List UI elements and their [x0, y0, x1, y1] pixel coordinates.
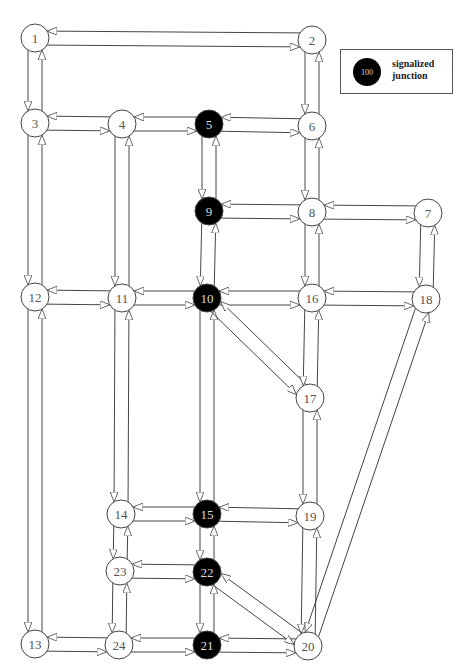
junction-node-4: 4 [108, 110, 136, 138]
legend-text: signalized junction [392, 58, 434, 82]
link-arrow [200, 223, 201, 285]
junction-node-8: 8 [298, 198, 326, 226]
link-arrow [433, 226, 434, 287]
link-arrow [221, 218, 299, 219]
link-arrow [222, 574, 303, 633]
junction-label: 9 [206, 204, 213, 219]
link-arrow [419, 225, 420, 286]
junction-label: 12 [29, 290, 42, 305]
link-arrow [222, 204, 300, 205]
link-arrow [127, 527, 128, 559]
junction-nodes: 123456789101112131415161718192021222324 [21, 24, 442, 660]
junction-node-2: 2 [298, 26, 326, 54]
junction-label: 18 [420, 292, 433, 307]
junction-label: 1 [32, 31, 39, 46]
junction-node-17: 17 [296, 384, 324, 412]
junction-node-21: 21 [193, 631, 221, 659]
link-arrow [325, 205, 416, 206]
junction-label: 6 [309, 119, 316, 134]
road-network-diagram: 123456789101112131415161718192021222324 [0, 0, 464, 672]
junction-node-10: 10 [193, 284, 221, 312]
junction-node-14: 14 [107, 500, 135, 528]
junction-node-16: 16 [298, 284, 326, 312]
junction-label: 14 [115, 507, 129, 522]
link-arrow [48, 637, 107, 638]
link-arrow [324, 219, 415, 220]
link-arrow [132, 578, 194, 579]
junction-node-6: 6 [298, 112, 326, 140]
junction-node-1: 1 [21, 24, 49, 52]
link-arrow [317, 311, 319, 386]
link-arrow [114, 310, 115, 501]
legend-line-1: signalized [392, 58, 434, 70]
link-arrow [113, 526, 114, 558]
junction-label: 8 [309, 205, 316, 220]
directed-links [28, 31, 435, 653]
junction-node-12: 12 [21, 283, 49, 311]
junction-label: 23 [114, 564, 127, 579]
link-arrow [306, 308, 416, 631]
junction-label: 7 [425, 206, 432, 221]
link-arrow [48, 290, 110, 291]
junction-label: 5 [206, 117, 213, 132]
junction-label: 4 [119, 117, 126, 132]
link-arrow [324, 305, 413, 306]
link-arrow [48, 116, 110, 117]
link-arrow [48, 31, 300, 33]
link-arrow [126, 584, 127, 633]
junction-node-9: 9 [195, 197, 223, 225]
link-arrow [219, 652, 295, 653]
junction-label: 16 [306, 291, 320, 306]
link-arrow [128, 311, 129, 502]
link-arrow [47, 651, 106, 652]
junction-label: 19 [304, 509, 317, 524]
link-arrow [301, 528, 303, 633]
junction-node-5: 5 [195, 110, 223, 138]
link-arrow [325, 291, 414, 292]
link-arrow [303, 310, 305, 385]
link-arrow [47, 304, 109, 305]
junction-node-20: 20 [294, 632, 322, 660]
link-arrow [47, 45, 299, 47]
link-arrow [112, 583, 113, 632]
junction-node-22: 22 [193, 558, 221, 586]
junction-label: 24 [113, 638, 127, 653]
link-arrow [318, 314, 428, 637]
junction-node-19: 19 [296, 502, 324, 530]
link-arrow [220, 638, 296, 639]
link-arrow [221, 131, 299, 133]
link-arrow [220, 507, 298, 509]
junction-label: 3 [32, 116, 39, 131]
junction-label: 2 [309, 33, 316, 48]
legend-line-2: junction [392, 70, 434, 82]
junction-label: 13 [29, 637, 42, 652]
junction-label: 21 [201, 638, 214, 653]
junction-label: 10 [201, 291, 214, 306]
junction-node-15: 15 [193, 500, 221, 528]
junction-node-11: 11 [108, 284, 136, 312]
legend-box: 100 signalized junction [340, 49, 453, 94]
link-arrow [222, 117, 300, 119]
link-arrow [47, 130, 109, 131]
junction-label: 11 [116, 291, 129, 306]
junction-label: 15 [201, 507, 214, 522]
junction-label: 17 [304, 391, 318, 406]
junction-node-24: 24 [105, 631, 133, 659]
junction-label: 20 [302, 639, 315, 654]
junction-node-7: 7 [414, 199, 442, 227]
junction-node-18: 18 [412, 285, 440, 313]
link-arrow [213, 585, 294, 644]
junction-node-23: 23 [106, 557, 134, 585]
legend-symbol-label: 100 [361, 68, 373, 77]
junction-label: 22 [201, 565, 214, 580]
signalized-junction-symbol: 100 [353, 58, 381, 86]
link-arrow [221, 302, 306, 385]
link-arrow [219, 521, 297, 523]
link-arrow [315, 529, 317, 634]
link-arrow [133, 564, 195, 565]
junction-node-13: 13 [21, 630, 49, 658]
junction-node-3: 3 [21, 109, 49, 137]
link-arrow [211, 311, 296, 394]
link-arrow [214, 224, 215, 286]
